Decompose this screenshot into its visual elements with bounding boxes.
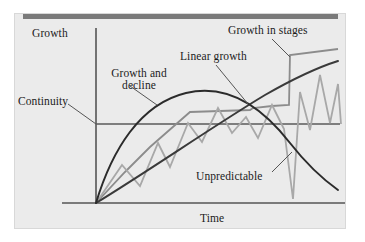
series-unpredictable xyxy=(96,75,341,203)
leader-line-linear-growth xyxy=(216,65,248,104)
series-label-continuity: Continuity xyxy=(18,95,68,107)
series-label-unpredictable: Unpredictable xyxy=(196,170,262,182)
leader-line-growth-in-stages xyxy=(272,39,290,57)
series-label-growth-and-decline: Growth and decline xyxy=(96,67,182,92)
series-label-growth-and-decline-line1: Growth and xyxy=(96,67,182,79)
y-axis-label: Growth xyxy=(32,27,68,39)
series-label-linear-growth: Linear growth xyxy=(180,50,247,62)
top-rule xyxy=(23,14,338,19)
series-label-growth-in-stages: Growth in stages xyxy=(228,24,308,36)
x-axis-label: Time xyxy=(200,212,224,224)
leader-line-continuity xyxy=(68,104,96,124)
series-growth-and-decline xyxy=(96,91,338,203)
figure-container: Growth Continuity Growth and decline Lin… xyxy=(0,0,365,242)
series-label-growth-and-decline-line2: decline xyxy=(96,79,182,91)
